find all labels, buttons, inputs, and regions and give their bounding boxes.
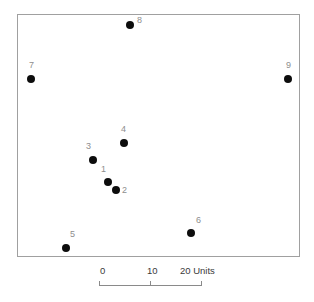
scale-bar-label: 20 Units: [180, 266, 215, 276]
data-point-label: 1: [101, 165, 106, 174]
data-point-marker: [62, 244, 70, 252]
data-point-marker: [120, 139, 128, 147]
data-point-marker: [104, 178, 112, 186]
data-point-label: 6: [196, 216, 201, 225]
data-point-label: 5: [70, 230, 75, 239]
scale-bar-tick: [150, 281, 151, 286]
plot-frame: [17, 14, 300, 257]
data-point-label: 3: [86, 142, 91, 151]
data-point-marker: [112, 186, 120, 194]
data-point-label: 7: [29, 61, 34, 70]
scale-bar-tick: [99, 281, 100, 286]
data-point-marker: [284, 75, 292, 83]
scale-bar-label: 10: [147, 266, 158, 276]
scale-bar-tick: [201, 281, 202, 286]
scale-bar-label: 0: [100, 266, 105, 276]
scatter-plot-figure: 123456789 01020 Units: [0, 0, 314, 302]
data-point-marker: [89, 156, 97, 164]
data-point-label: 8: [137, 16, 142, 25]
data-point-marker: [27, 75, 35, 83]
data-point-marker: [187, 229, 195, 237]
data-point-label: 2: [122, 186, 127, 195]
data-point-marker: [126, 21, 134, 29]
data-point-label: 9: [286, 61, 291, 70]
data-point-label: 4: [121, 125, 126, 134]
